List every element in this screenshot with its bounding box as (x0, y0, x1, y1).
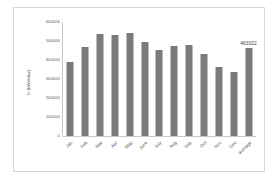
x-axis-tick-label: Aug (169, 140, 178, 149)
x-axis-label-slot: Nov (211, 138, 226, 170)
x-axis-label-slot: Mar (93, 138, 108, 170)
bar (97, 34, 104, 136)
x-axis-label-slot: July (152, 138, 167, 170)
x-axis-label-slot: Apr (108, 138, 123, 170)
x-axis-tick-label: June (138, 140, 149, 151)
bar (141, 42, 148, 136)
x-axis-tick-label: Nov (213, 140, 222, 149)
chart-container: U (kWh/day) 6000005000004000003000002000… (13, 7, 265, 172)
bar-value-label: 463322 (240, 40, 257, 46)
y-axis-tick-label: 500000 (30, 39, 60, 43)
x-axis-tick-label: Oct (199, 140, 208, 149)
bar-column (167, 22, 182, 136)
bar-column (78, 22, 93, 136)
bar-column: 463322 (241, 22, 256, 136)
bar-column (182, 22, 197, 136)
x-axis-tick-label: Jan (65, 140, 74, 149)
bar (215, 67, 222, 136)
x-axis-tick-label: July (154, 140, 163, 149)
plot-area: U (kWh/day) 6000005000004000003000002000… (14, 8, 264, 171)
x-axis-label-slot: Sep (182, 138, 197, 170)
y-axis-tick-label: 300000 (30, 77, 60, 81)
x-axis-label-slot: Aug (167, 138, 182, 170)
bar (82, 47, 89, 136)
bar (126, 33, 133, 136)
bar (67, 62, 74, 136)
bar (111, 35, 118, 136)
x-axis-label-slot: May (122, 138, 137, 170)
bar-column (93, 22, 108, 136)
y-axis-tick-labels: 6000005000004000003000002000001000000 (28, 8, 60, 171)
bar (201, 54, 208, 136)
bar-column (137, 22, 152, 136)
y-axis-tick-label: 0 (30, 134, 60, 138)
x-axis-tick-label: Mar (95, 140, 104, 149)
y-axis-tick-label: 200000 (30, 96, 60, 100)
x-axis-label-slot: Feb (78, 138, 93, 170)
x-axis-tick-label: Dec (228, 140, 237, 149)
y-axis-tick-label: 400000 (30, 58, 60, 62)
x-axis-tick-label: Feb (80, 140, 89, 149)
x-axis-label-slot: average (241, 138, 256, 170)
bar (171, 46, 178, 136)
bar-column (63, 22, 78, 136)
bar-column (122, 22, 137, 136)
x-axis-tick-label: Sep (183, 140, 192, 149)
bar-column (152, 22, 167, 136)
bar-column (108, 22, 123, 136)
x-axis-label-slot: Oct (197, 138, 212, 170)
bar-column (197, 22, 212, 136)
bar (245, 48, 252, 136)
x-axis-tick-label: Apr (110, 140, 119, 149)
x-axis-label-slot: June (137, 138, 152, 170)
bar (156, 50, 163, 136)
bar-series: 463322 (63, 22, 256, 136)
x-axis-tick-label: May (124, 140, 134, 150)
y-axis-tick-label: 600000 (30, 20, 60, 24)
bar-column (226, 22, 241, 136)
x-axis-line (62, 136, 256, 137)
x-axis-label-slot: Jan (63, 138, 78, 170)
bar (230, 72, 237, 136)
bar-column (211, 22, 226, 136)
x-axis-tick-labels: JanFebMarAprMayJuneJulyAugSepOctNovDecav… (63, 138, 256, 170)
y-axis-tick-label: 100000 (30, 115, 60, 119)
bar (186, 45, 193, 136)
